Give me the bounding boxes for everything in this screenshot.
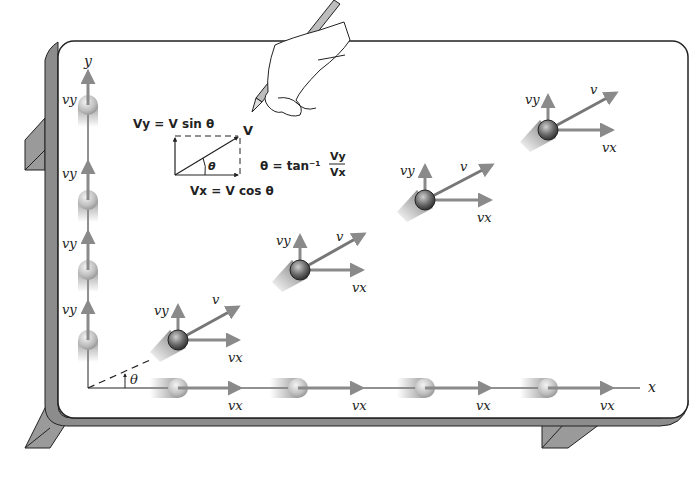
vx-equation: Vx = V cos θ: [190, 184, 274, 198]
svg-text:vy: vy: [154, 303, 169, 318]
svg-text:vx: vx: [228, 398, 243, 413]
svg-text:vx: vx: [476, 398, 491, 413]
projectile-motion-diagram: y x θ vy vy vy vy: [0, 0, 695, 479]
svg-text:vx: vx: [228, 350, 243, 365]
bottom-right-bracket: [542, 424, 600, 448]
whiteboard: [58, 41, 688, 418]
theta-equation: θ = tan⁻¹: [260, 159, 321, 173]
v-sketch-label: V: [243, 123, 253, 138]
theta-label: θ: [130, 372, 138, 387]
svg-text:v: v: [212, 292, 220, 307]
y-axis-label: y: [83, 53, 93, 69]
svg-text:vy: vy: [276, 233, 291, 248]
svg-text:vy: vy: [62, 166, 77, 181]
left-bracket: [25, 118, 45, 170]
vy-equation: Vy = V sin θ: [133, 117, 214, 131]
svg-text:vx: vx: [602, 140, 617, 155]
svg-text:vy: vy: [62, 236, 77, 251]
svg-text:vy: vy: [62, 302, 77, 317]
svg-text:vy: vy: [400, 163, 415, 178]
x-axis-label: x: [648, 379, 656, 395]
svg-text:vx: vx: [600, 398, 615, 413]
svg-text:v: v: [460, 159, 468, 174]
angle-sketch-label: θ: [208, 160, 216, 173]
theta-equation-denominator: Vx: [330, 166, 346, 179]
svg-text:vx: vx: [352, 398, 367, 413]
svg-text:v: v: [336, 229, 344, 244]
svg-text:vx: vx: [352, 280, 367, 295]
theta-equation-numerator: Vy: [330, 150, 346, 163]
svg-text:vx: vx: [477, 210, 492, 225]
svg-text:vy: vy: [62, 92, 77, 107]
svg-text:v: v: [590, 82, 598, 97]
svg-text:vy: vy: [525, 92, 540, 107]
